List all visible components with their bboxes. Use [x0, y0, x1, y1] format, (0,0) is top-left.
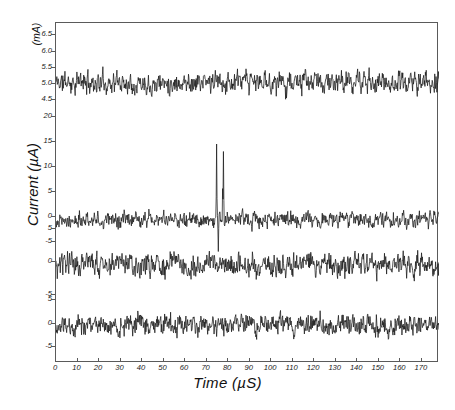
y-axis-tick-label: -5 — [18, 342, 52, 350]
x-axis-tick-mark — [270, 358, 271, 362]
x-axis-tick-mark — [378, 358, 379, 362]
x-axis-tick-mark — [249, 358, 250, 362]
y-axis-tick-mark — [51, 141, 55, 142]
y-axis-tick-mark — [51, 67, 55, 68]
y-axis-tick-label: 0 — [18, 257, 52, 265]
y-axis-tick-label: 6.5 — [18, 30, 52, 38]
x-axis-tick-mark — [227, 358, 228, 362]
x-axis-tick-mark — [141, 358, 142, 362]
y-axis-tick-mark — [51, 166, 55, 167]
y-axis-tick-label-layer: 4.55.05.56.06.5-505101520-505-505 — [14, 0, 52, 410]
y-axis-tick-label: 5.0 — [18, 79, 52, 87]
y-axis-tick-label: 5 — [18, 224, 52, 232]
panel-4-background-trace — [56, 310, 439, 339]
x-axis-title: Time (µS) — [0, 374, 455, 391]
x-axis-tick-mark — [55, 358, 56, 362]
y-axis-tick-label: 5.5 — [18, 63, 52, 71]
y-axis-tick-label: 5 — [18, 295, 52, 303]
y-axis-tick-mark — [51, 216, 55, 217]
y-axis-tick-mark — [51, 34, 55, 35]
x-axis-tick-mark — [292, 358, 293, 362]
x-axis-tick-mark — [206, 358, 207, 362]
y-axis-tick-label: 0 — [18, 319, 52, 327]
plot-frame — [55, 22, 438, 362]
y-axis-tick-label: 10 — [18, 162, 52, 170]
panel-3-reference-trace — [56, 250, 439, 281]
y-axis-tick-mark — [51, 51, 55, 52]
y-axis-tick-label: 20 — [18, 112, 52, 120]
x-axis-tick-mark — [421, 358, 422, 362]
trace-svg — [56, 23, 439, 363]
y-axis-tick-label: 4.5 — [18, 95, 52, 103]
y-axis-tick-mark — [51, 299, 55, 300]
x-axis-tick-mark — [77, 358, 78, 362]
y-axis-tick-mark — [51, 116, 55, 117]
x-axis-tick-mark — [313, 358, 314, 362]
y-axis-tick-mark — [51, 191, 55, 192]
y-axis-tick-mark — [51, 99, 55, 100]
x-axis-tick-mark — [163, 358, 164, 362]
panel-1-excitation-current — [56, 67, 439, 100]
y-axis-tick-label: -5 — [18, 237, 52, 245]
x-axis-tick-mark — [399, 358, 400, 362]
y-axis-tick-mark — [51, 346, 55, 347]
x-axis-tick-mark — [184, 358, 185, 362]
y-axis-tick-mark — [51, 228, 55, 229]
x-axis-tick-mark — [356, 358, 357, 362]
figure-container: Current (µA) (mA) 4.55.05.56.06.5-505101… — [0, 0, 455, 410]
panel-2-signal-with-spikes — [56, 144, 439, 252]
y-axis-tick-mark — [51, 294, 55, 295]
x-axis-tick-mark — [120, 358, 121, 362]
x-axis-tick-mark — [335, 358, 336, 362]
x-axis-tick-label: 170 — [406, 364, 436, 372]
y-axis-tick-label: 6.0 — [18, 47, 52, 55]
x-axis-tick-mark — [98, 358, 99, 362]
y-axis-tick-label: 5 — [18, 187, 52, 195]
y-axis-tick-mark — [51, 241, 55, 242]
y-axis-tick-mark — [51, 261, 55, 262]
y-axis-tick-label: 15 — [18, 137, 52, 145]
y-axis-tick-mark — [51, 83, 55, 84]
y-axis-tick-mark — [51, 323, 55, 324]
y-axis-tick-label: 0 — [18, 212, 52, 220]
